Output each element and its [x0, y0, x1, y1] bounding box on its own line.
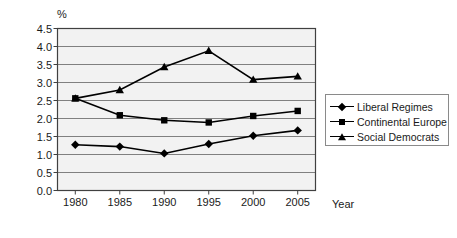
- legend-item: Social Democrats: [329, 129, 445, 144]
- legend-item: Liberal Regimes: [329, 99, 445, 114]
- legend-marker-triangle-icon: [329, 130, 355, 144]
- legend-item-label: Continental Europe: [355, 116, 447, 128]
- data-point-marker: [295, 108, 301, 114]
- legend-marker-diamond-icon: [329, 100, 355, 114]
- legend-item-label: Liberal Regimes: [355, 101, 433, 113]
- data-point-marker: [250, 113, 256, 119]
- data-point-marker: [206, 119, 212, 125]
- chart-figure: % Year 0.00.51.01.52.02.53.03.54.04.5 19…: [0, 0, 457, 238]
- legend-item-label: Social Democrats: [355, 131, 439, 143]
- legend: Liberal Regimes Continental Europe Socia…: [325, 94, 449, 146]
- legend-marker-square-icon: [329, 115, 355, 129]
- data-point-marker: [117, 112, 123, 118]
- data-point-marker: [161, 117, 167, 123]
- legend-item: Continental Europe: [329, 114, 445, 129]
